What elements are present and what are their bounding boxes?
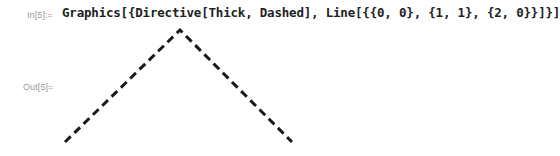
dashed-line-plot: [65, 30, 292, 142]
